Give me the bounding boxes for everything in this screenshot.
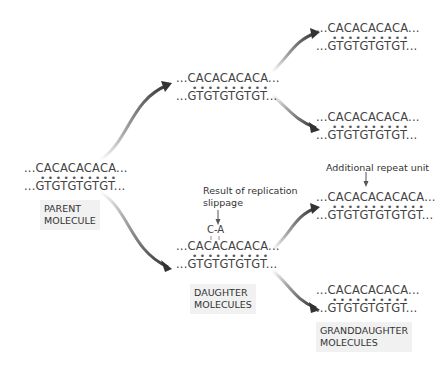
pointer-slippage [216, 210, 221, 225]
g4-bottom-strand: ...GTGTGTGTGT... [316, 302, 417, 314]
slippage-note: Result of replication slippage [203, 185, 298, 209]
arrow-daughter2-to-g4 [272, 270, 320, 313]
parent-bottom-strand: ...GTGTGTGTGT... [24, 180, 125, 192]
bulge-c-a: C-A [207, 224, 224, 235]
daughter2-bottom-strand: ...GTGTGTGTGT... [176, 258, 277, 270]
arrow-daughter1-to-g2 [272, 95, 320, 133]
arrow-parent-to-daughter1 [100, 81, 172, 160]
pointer-additional-repeat [364, 172, 369, 187]
parent-label: PARENT MOLECULE [40, 200, 100, 230]
arrow-parent-to-daughter2 [100, 192, 172, 272]
arrow-daughter1-to-g1 [272, 28, 320, 72]
additional-repeat-note: Additional repeat unit [326, 162, 429, 174]
granddaughter-label: GRANDDAUGHTER MOLECULES [316, 322, 412, 352]
g1-bottom-strand: ...GTGTGTGTGT... [316, 40, 417, 52]
g3-bottom-strand: ...GTGTGTGTGTGT... [316, 209, 433, 221]
g2-bottom-strand: ...GTGTGTGTGT... [316, 129, 417, 141]
daughter-label: DAUGHTER MOLECULES [190, 284, 256, 314]
daughter1-bottom-strand: ...GTGTGTGTGT... [176, 90, 277, 102]
